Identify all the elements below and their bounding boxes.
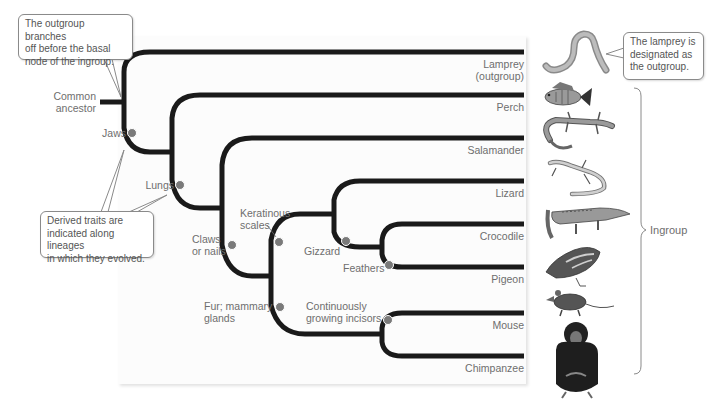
lamprey-illustration: [546, 34, 606, 70]
pigeon-illustration: [546, 247, 600, 286]
animal-illustrations: [0, 0, 719, 408]
perch-illustration: [545, 82, 592, 106]
lizard-illustration: [550, 160, 604, 194]
chimpanzee-illustration: [556, 322, 598, 398]
crocodile-illustration: [548, 208, 631, 238]
mouse-illustration: [546, 290, 614, 316]
phylogenetic-tree-figure: Common ancestor Jaws Lungs Claws or nail…: [0, 0, 719, 408]
salamander-illustration: [546, 112, 612, 148]
